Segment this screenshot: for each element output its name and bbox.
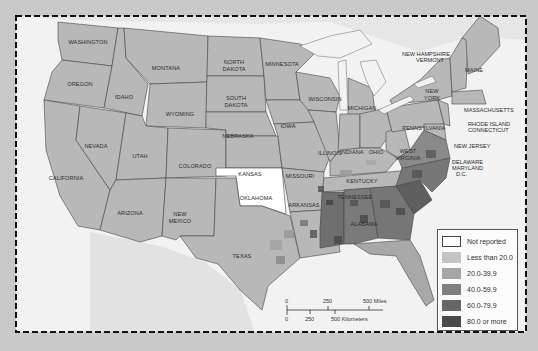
svg-text:COLORADO: COLORADO [179, 163, 212, 169]
svg-text:OHIO: OHIO [369, 149, 384, 155]
legend-swatch-60-79 [442, 300, 461, 311]
svg-text:YORK: YORK [424, 95, 440, 101]
svg-text:NEW: NEW [425, 88, 439, 94]
scale-km-250: 250 [305, 316, 314, 322]
state-florida [354, 240, 434, 306]
svg-text:VERMONT: VERMONT [416, 57, 445, 63]
svg-text:MISSOURI: MISSOURI [286, 173, 315, 179]
legend-swatch-20-39 [442, 268, 461, 279]
state-indiana [338, 114, 360, 152]
scale-km-500: 500 Kilometers [331, 316, 368, 322]
legend-item: Not reported [442, 233, 513, 249]
svg-text:DAKOTA: DAKOTA [222, 66, 245, 72]
svg-text:MAINE: MAINE [465, 67, 483, 73]
svg-text:INDIANA: INDIANA [340, 149, 364, 155]
svg-text:KENTUCKY: KENTUCKY [346, 178, 377, 184]
svg-text:TENNESSEE: TENNESSEE [338, 194, 373, 200]
svg-text:ILLINOIS: ILLINOIS [318, 150, 342, 156]
svg-text:WEST: WEST [400, 148, 417, 154]
legend-item: 40.0-59.9 [442, 281, 513, 297]
state-new-mexico [162, 178, 216, 240]
lake-michigan [338, 60, 348, 110]
svg-text:NEW: NEW [173, 211, 187, 217]
legend-item: 60.0-79.9 [442, 297, 513, 313]
svg-text:DAKOTA: DAKOTA [224, 102, 247, 108]
svg-text:MEXICO: MEXICO [169, 218, 192, 224]
state-vermont-nh [450, 38, 468, 92]
svg-text:WYOMING: WYOMING [166, 111, 195, 117]
svg-text:NEBRASKA: NEBRASKA [222, 133, 253, 139]
svg-text:ARIZONA: ARIZONA [117, 210, 143, 216]
svg-text:NEVADA: NEVADA [84, 143, 107, 149]
svg-text:MICHIGAN: MICHIGAN [348, 105, 377, 111]
svg-text:CALIFORNIA: CALIFORNIA [49, 175, 84, 181]
svg-text:PENNSYLVANIA: PENNSYLVANIA [402, 125, 445, 131]
svg-text:OKLAHOMA: OKLAHOMA [240, 195, 273, 201]
scale-miles-500: 500 Miles [363, 298, 387, 304]
svg-text:NEW JERSEY: NEW JERSEY [454, 143, 491, 149]
svg-text:OREGON: OREGON [67, 81, 92, 87]
svg-text:IDAHO: IDAHO [115, 94, 134, 100]
scale-miles-250: 250 [323, 298, 332, 304]
svg-text:VIRGINIA: VIRGINIA [395, 155, 421, 161]
legend-swatch-not-reported [442, 236, 461, 247]
svg-text:MONTANA: MONTANA [152, 65, 180, 71]
scale-bar: 0 250 500 Miles 0 250 500 Kilometers [283, 298, 393, 328]
svg-text:IOWA: IOWA [280, 123, 295, 129]
state-wyoming [146, 82, 207, 128]
svg-text:UTAH: UTAH [132, 153, 147, 159]
svg-text:MASSACHUSETTS: MASSACHUSETTS [464, 107, 514, 113]
legend-swatch-lt20 [442, 252, 461, 263]
map-legend: Not reported Less than 20.0 20.0-39.9 40… [437, 229, 518, 331]
scale-km-0: 0 [285, 316, 288, 322]
svg-text:KANSAS: KANSAS [238, 171, 261, 177]
svg-text:TEXAS: TEXAS [233, 253, 252, 259]
svg-text:D.C.: D.C. [456, 171, 468, 177]
legend-item: 20.0-39.9 [442, 265, 513, 281]
legend-item: Less than 20.0 [442, 249, 513, 265]
svg-text:WASHINGTON: WASHINGTON [68, 39, 107, 45]
legend-swatch-40-59 [442, 284, 461, 295]
svg-text:ALABAMA: ALABAMA [350, 221, 377, 227]
svg-text:WISCONSIN: WISCONSIN [308, 96, 341, 102]
scale-miles-0: 0 [285, 298, 288, 304]
svg-text:NORTH: NORTH [224, 59, 244, 65]
svg-text:SOUTH: SOUTH [226, 95, 246, 101]
state-kansas [226, 136, 282, 168]
svg-text:MINNESOTA: MINNESOTA [265, 61, 299, 67]
legend-item: 80.0 or more [442, 313, 513, 329]
svg-text:ARKANSAS: ARKANSAS [288, 202, 319, 208]
legend-swatch-80-plus [442, 316, 461, 327]
svg-text:CONNECTICUT: CONNECTICUT [468, 127, 509, 133]
state-new-england-south [452, 90, 486, 104]
